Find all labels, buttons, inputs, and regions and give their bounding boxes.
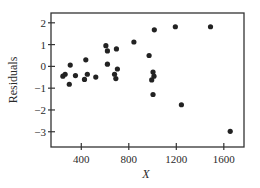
- data-points: [60, 24, 233, 134]
- data-point: [152, 27, 157, 32]
- data-point: [147, 53, 152, 58]
- y-axis-label: Residuals: [6, 56, 20, 103]
- data-point: [173, 24, 178, 29]
- y-tick-label: 0: [41, 60, 47, 72]
- y-tick-label: −2: [34, 104, 46, 116]
- data-point: [149, 77, 154, 82]
- data-point: [103, 43, 108, 48]
- data-point: [131, 39, 136, 44]
- data-point: [105, 62, 110, 67]
- data-point: [68, 62, 73, 67]
- data-point: [113, 76, 118, 81]
- data-point: [179, 102, 184, 107]
- x-tick-label: 1600: [213, 153, 236, 165]
- y-tick-label: −3: [34, 126, 46, 138]
- x-tick-label: 400: [73, 153, 90, 165]
- data-point: [228, 129, 233, 134]
- data-point: [93, 74, 98, 79]
- data-point: [83, 57, 88, 62]
- data-point: [82, 77, 87, 82]
- y-tick-label: −1: [34, 82, 46, 94]
- data-point: [114, 46, 119, 51]
- x-axis-ticks: 40080012001600: [73, 143, 235, 165]
- data-point: [63, 72, 68, 77]
- y-tick-label: 1: [41, 39, 47, 51]
- data-point: [67, 82, 72, 87]
- data-point: [115, 66, 120, 71]
- data-point: [208, 24, 213, 29]
- data-point: [73, 73, 78, 78]
- plot-frame: [51, 13, 244, 147]
- x-tick-label: 800: [121, 153, 138, 165]
- data-point: [85, 72, 90, 77]
- y-axis-ticks: 210−1−2−3: [34, 17, 55, 138]
- x-axis-label: X: [141, 167, 150, 181]
- plot-border: [51, 13, 244, 147]
- x-tick-label: 1200: [165, 153, 188, 165]
- y-tick-label: 2: [41, 17, 47, 29]
- data-point: [150, 92, 155, 97]
- data-point: [105, 48, 110, 53]
- residual-scatter-plot: 210−1−2−3 40080012001600 Residuals X: [0, 0, 260, 188]
